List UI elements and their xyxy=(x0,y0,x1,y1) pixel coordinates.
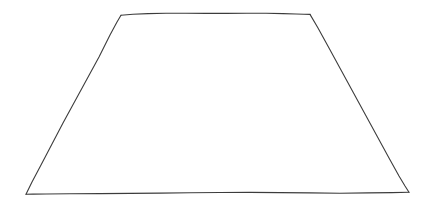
canvas-background xyxy=(0,0,431,207)
trapezoid-svg xyxy=(0,0,431,207)
drawing-canvas xyxy=(0,0,431,207)
